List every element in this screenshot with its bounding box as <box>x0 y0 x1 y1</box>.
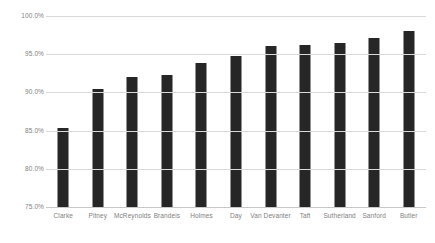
x-tick-label: Sutherland <box>323 213 355 220</box>
bar[interactable] <box>403 31 414 207</box>
x-tick-label: Van Devanter <box>250 213 290 220</box>
gridline <box>46 16 426 17</box>
bar-slot <box>357 16 392 207</box>
x-tick-label: Sanford <box>362 213 385 220</box>
bar[interactable] <box>127 77 138 207</box>
plot-area <box>46 16 426 207</box>
bar-slot <box>115 16 150 207</box>
gridline <box>46 207 426 208</box>
bar-slot <box>253 16 288 207</box>
bar-slot <box>391 16 426 207</box>
y-tick-label: 90.0% <box>4 89 44 96</box>
x-tick-label: Pitney <box>88 213 107 220</box>
bar-slot <box>288 16 323 207</box>
x-tick-label: Clarke <box>54 213 73 220</box>
bar[interactable] <box>58 128 69 207</box>
y-tick-label: 85.0% <box>4 127 44 134</box>
x-tick-label: McReynolds <box>114 213 151 220</box>
bar-slot <box>150 16 185 207</box>
bar-slot <box>81 16 116 207</box>
x-tick-label: Day <box>230 213 242 220</box>
bar[interactable] <box>92 89 103 207</box>
gridline <box>46 169 426 170</box>
x-axis: ClarkePitneyMcReynoldsBrandeisHolmesDayV… <box>46 210 426 230</box>
bar-slot <box>46 16 81 207</box>
y-tick-label: 80.0% <box>4 166 44 173</box>
bar-chart: 75.0%80.0%85.0%90.0%95.0%100.0% ClarkePi… <box>0 0 435 243</box>
gridline <box>46 92 426 93</box>
gridline <box>46 131 426 132</box>
x-tick-label: Taft <box>300 213 311 220</box>
y-axis: 75.0%80.0%85.0%90.0%95.0%100.0% <box>0 0 44 243</box>
bar[interactable] <box>265 46 276 207</box>
y-tick-label: 95.0% <box>4 51 44 58</box>
x-tick-label: Butler <box>400 213 418 220</box>
x-tick-label: Brandeis <box>154 213 180 220</box>
bar-slot <box>219 16 254 207</box>
y-tick-label: 100.0% <box>4 13 44 20</box>
bar[interactable] <box>161 75 172 207</box>
bar-slot <box>184 16 219 207</box>
bar[interactable] <box>369 38 380 207</box>
gridline <box>46 54 426 55</box>
bars-layer <box>46 16 426 207</box>
bar[interactable] <box>300 45 311 207</box>
bar[interactable] <box>196 63 207 207</box>
y-tick-label: 75.0% <box>4 204 44 211</box>
bar-slot <box>322 16 357 207</box>
bar[interactable] <box>334 43 345 207</box>
x-tick-label: Holmes <box>190 213 213 220</box>
